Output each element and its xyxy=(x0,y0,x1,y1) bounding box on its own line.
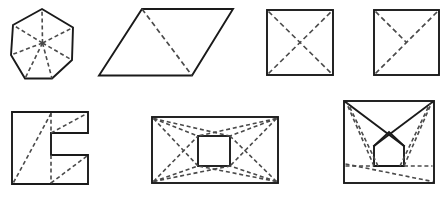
ray-tl-to-inner-tl xyxy=(154,119,199,137)
dashed-ray-house-right-to-top-right xyxy=(400,104,430,167)
figure-parallelogram-with-one-diagonal xyxy=(99,9,233,76)
heptagon-spoke-2 xyxy=(43,28,74,44)
heptagon-spoke-7 xyxy=(13,25,43,43)
dashed-ray-bundle-right xyxy=(400,103,432,166)
heptagon-spoke-6 xyxy=(11,43,43,55)
c-bracket-lower-arm-diagonal xyxy=(51,156,87,183)
square-half-diagonal-tl-center xyxy=(376,12,407,43)
parallelogram-diagonal xyxy=(142,9,192,76)
heptagon-spoke-1 xyxy=(42,9,43,43)
figure-canvas xyxy=(0,0,446,198)
dashed-ray-house-left-to-top-left xyxy=(348,104,378,167)
c-bracket-long-diagonal xyxy=(14,114,52,183)
figure-square-with-diagonal-and-half-diagonal xyxy=(374,10,439,75)
solid-ray-top-left-crossing xyxy=(346,102,405,146)
figure-sheet xyxy=(0,0,446,198)
dashed-ray-bundle-left xyxy=(347,103,379,166)
solid-ray-top-right-crossing xyxy=(374,102,433,146)
figure-c-bracket-polygon-with-dashed-cuts xyxy=(12,112,88,184)
c-bracket-outline xyxy=(12,112,88,184)
ray-bl-to-inner-br xyxy=(154,166,231,182)
house-pentagon-outline xyxy=(374,132,404,166)
ray-tr-to-inner-tr xyxy=(230,119,277,137)
parallelogram-outline xyxy=(99,9,233,76)
figure-rectangle-with-inner-square-and-corner-rays xyxy=(152,117,278,183)
figure-heptagon-with-center-spokes xyxy=(11,9,73,79)
c-bracket-upper-arm-diagonal xyxy=(51,114,87,134)
figure-square-with-both-diagonals xyxy=(267,10,333,75)
figure-square-with-crossed-rays-and-house-pentagon xyxy=(344,101,434,183)
outer-rectangle-outline xyxy=(152,117,278,183)
outer-square-outline xyxy=(344,101,434,183)
inner-square-outline xyxy=(198,136,230,166)
